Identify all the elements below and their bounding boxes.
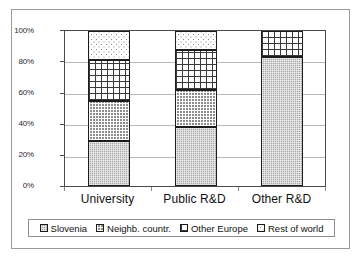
segment-university-rest-of-world[interactable] — [88, 31, 130, 60]
y-tick-label-20: 20% — [0, 151, 34, 159]
segment-other-rd-slovenia[interactable] — [261, 57, 303, 186]
y-tick-label-0: 0% — [0, 182, 34, 190]
bar-slot-other-rd — [239, 31, 325, 186]
plot-area — [64, 30, 326, 187]
legend-label-other-europe: Other Europe — [191, 223, 248, 234]
slovenia-swatch-icon — [40, 224, 48, 232]
x-axis-label-university: University — [64, 192, 151, 206]
segment-public-rd-rest-of-world[interactable] — [175, 31, 217, 50]
bar-slot-university — [65, 31, 152, 186]
bar-slot-public-rd — [152, 31, 239, 186]
y-tick-label-80: 80% — [0, 58, 34, 66]
segment-other-rd-other-europe[interactable] — [261, 31, 303, 57]
x-axis-label-other-rd: Other R&D — [238, 192, 325, 206]
legend-item-other-europe[interactable]: Other Europe — [180, 223, 248, 234]
x-tick-mark-3 — [238, 187, 239, 191]
y-tick-label-60: 60% — [0, 89, 34, 97]
neighb-countr-swatch-icon — [96, 224, 104, 232]
bar-public-rd[interactable] — [175, 31, 217, 186]
segment-university-neighb-countr[interactable] — [88, 101, 130, 141]
x-tick-mark-1 — [64, 187, 65, 191]
other-europe-swatch-icon — [180, 224, 188, 232]
plot-wrapper: 100% 80% 60% 40% 20% 0% — [12, 10, 349, 248]
legend-item-neighb-countr[interactable]: Neighb. countr. — [96, 223, 171, 234]
segment-public-rd-neighb-countr[interactable] — [175, 90, 217, 127]
y-tick-label-100: 100% — [0, 27, 34, 35]
bar-university[interactable] — [88, 31, 130, 186]
x-tick-mark-2 — [151, 187, 152, 191]
rest-of-world-swatch-icon — [257, 224, 265, 232]
segment-public-rd-slovenia[interactable] — [175, 127, 217, 186]
legend-label-rest-of-world: Rest of world — [268, 223, 323, 234]
legend-label-slovenia: Slovenia — [51, 223, 87, 234]
legend-item-slovenia[interactable]: Slovenia — [40, 223, 87, 234]
segment-public-rd-other-europe[interactable] — [175, 50, 217, 90]
x-tick-mark-4 — [325, 187, 326, 191]
legend-item-rest-of-world[interactable]: Rest of world — [257, 223, 323, 234]
chart-legend: Slovenia Neighb. countr. Other Europe Re… — [28, 219, 335, 237]
y-tick-label-40: 40% — [0, 120, 34, 128]
bar-other-rd[interactable] — [261, 31, 303, 186]
chart-card: 100% 80% 60% 40% 20% 0% — [11, 9, 350, 249]
legend-label-neighb-countr: Neighb. countr. — [107, 223, 171, 234]
x-axis-label-public-rd: Public R&D — [151, 192, 238, 206]
segment-university-slovenia[interactable] — [88, 141, 130, 186]
segment-university-other-europe[interactable] — [88, 60, 130, 100]
